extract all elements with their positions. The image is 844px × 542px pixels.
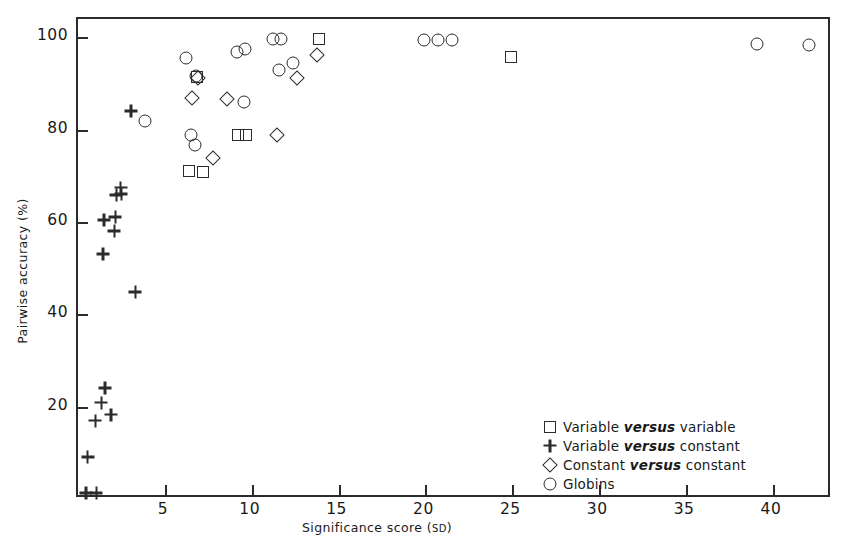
datapoint-plus-1-3 <box>98 214 111 227</box>
legend-label-2: Constant versus constant <box>563 457 746 473</box>
datapoint-circle-3-16 <box>803 38 816 51</box>
datapoint-circle-3-10 <box>272 63 285 76</box>
datapoint-circle-3-2 <box>190 70 203 83</box>
datapoint-circle-3-13 <box>431 34 444 47</box>
datapoint-square-0-0 <box>183 165 195 177</box>
datapoint-plus-1-6 <box>108 225 121 238</box>
x-tick-40 <box>773 485 775 496</box>
datapoint-plus-1-5 <box>105 409 118 422</box>
marker-circle <box>544 478 557 491</box>
scatter-plot-figure: Variable versus variableVariable versus … <box>0 0 844 542</box>
y-tick-60 <box>77 222 88 224</box>
datapoint-circle-3-1 <box>179 52 192 65</box>
datapoint-square-0-1 <box>197 166 209 178</box>
datapoint-plus-1-0 <box>89 414 102 427</box>
datapoint-diamond-2-4 <box>269 127 285 143</box>
marker-diamond <box>542 457 558 473</box>
legend-symbol-diamond-icon <box>541 455 563 474</box>
datapoint-plus-1-4 <box>98 382 111 395</box>
x-tick-15 <box>339 485 341 496</box>
y-tick-80 <box>77 130 88 132</box>
x-tick-label-20: 20 <box>400 500 446 518</box>
datapoint-plus-1-13 <box>79 487 92 500</box>
x-tick-label-10: 10 <box>227 500 273 518</box>
datapoint-plus-1-8 <box>110 189 123 202</box>
legend-emphasis-2: versus <box>630 457 682 473</box>
legend-item-2[interactable]: Constant versus constant <box>541 455 746 474</box>
datapoint-plus-1-9 <box>114 181 127 194</box>
legend-item-0[interactable]: Variable versus variable <box>541 417 746 436</box>
legend-symbol-plus-icon <box>541 436 563 455</box>
y-tick-20 <box>77 407 88 409</box>
datapoint-circle-3-0 <box>138 115 151 128</box>
legend-symbol-square-icon <box>541 417 563 436</box>
legend-item-3[interactable]: Globins <box>541 474 746 493</box>
datapoint-circle-3-11 <box>287 56 300 69</box>
datapoint-plus-1-2 <box>97 248 110 261</box>
datapoint-circle-3-4 <box>189 138 202 151</box>
datapoint-circle-3-6 <box>238 42 251 55</box>
x-axis-unit-sd: SD <box>432 523 447 534</box>
datapoint-circle-3-8 <box>267 33 280 46</box>
x-tick-label-35: 35 <box>661 500 707 518</box>
datapoint-circle-3-3 <box>184 129 197 142</box>
datapoint-diamond-2-5 <box>289 70 305 86</box>
legend-symbol-circle-icon <box>541 474 563 493</box>
x-tick-5 <box>165 485 167 496</box>
chart-legend: Variable versus variableVariable versus … <box>541 417 746 493</box>
legend-label-0: Variable versus variable <box>563 419 736 435</box>
plot-area: Variable versus variableVariable versus … <box>76 17 830 497</box>
legend-emphasis-0: versus <box>624 419 676 435</box>
x-tick-label-15: 15 <box>314 500 360 518</box>
datapoint-square-0-3 <box>232 129 244 141</box>
x-axis-title: Significance score (SD) <box>0 520 754 535</box>
legend-label-3: Globins <box>563 476 615 492</box>
y-axis-title: Pairwise accuracy (%) <box>15 71 30 471</box>
x-tick-label-5: 5 <box>140 500 186 518</box>
datapoint-plus-1-14 <box>90 487 103 500</box>
y-tick-label-100: 100 <box>22 26 68 44</box>
y-tick-100 <box>77 37 88 39</box>
datapoint-plus-1-10 <box>115 188 128 201</box>
legend-item-1[interactable]: Variable versus constant <box>541 436 746 455</box>
x-tick-label-40: 40 <box>748 500 794 518</box>
y-tick-40 <box>77 314 88 316</box>
x-tick-label-30: 30 <box>574 500 620 518</box>
x-tick-label-25: 25 <box>487 500 533 518</box>
datapoint-diamond-2-1 <box>190 70 206 86</box>
datapoint-square-0-5 <box>313 33 325 45</box>
datapoint-circle-3-15 <box>751 38 764 51</box>
datapoint-diamond-2-0 <box>184 91 200 107</box>
datapoint-diamond-2-3 <box>219 92 235 108</box>
datapoint-circle-3-9 <box>275 33 288 46</box>
datapoint-square-0-2 <box>191 71 203 83</box>
datapoint-plus-1-15 <box>81 451 94 464</box>
datapoint-plus-1-12 <box>129 286 142 299</box>
datapoint-square-0-6 <box>505 51 517 63</box>
datapoint-circle-3-14 <box>445 34 458 47</box>
datapoint-plus-1-11 <box>124 105 137 118</box>
datapoint-square-0-4 <box>240 129 252 141</box>
legend-label-1: Variable versus constant <box>563 438 740 454</box>
datapoint-diamond-2-6 <box>309 47 325 63</box>
datapoint-plus-1-7 <box>109 211 122 224</box>
legend-emphasis-1: versus <box>624 438 676 454</box>
x-tick-20 <box>425 485 427 496</box>
x-tick-25 <box>512 485 514 496</box>
marker-square <box>544 421 556 433</box>
datapoint-diamond-2-2 <box>205 150 221 166</box>
datapoint-circle-3-7 <box>237 96 250 109</box>
datapoint-circle-3-12 <box>417 34 430 47</box>
x-tick-10 <box>252 485 254 496</box>
datapoint-circle-3-5 <box>230 46 243 59</box>
datapoint-plus-1-1 <box>95 396 108 409</box>
marker-plus <box>544 440 557 453</box>
